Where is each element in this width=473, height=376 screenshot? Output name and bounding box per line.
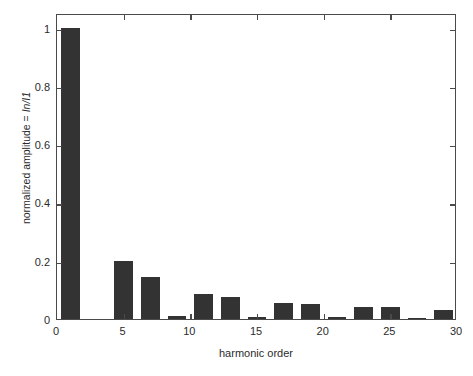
x-tick-top — [257, 15, 258, 20]
y-tick-left — [57, 204, 62, 205]
y-tick-label: 0 — [22, 314, 50, 326]
x-tick-label: 25 — [383, 325, 395, 337]
y-axis-title-prefix: normalized amplitude = — [20, 112, 32, 224]
x-tick-bottom — [124, 314, 125, 319]
x-tick-top — [124, 15, 125, 20]
x-tick-label: 30 — [450, 325, 462, 337]
x-tick-bottom — [324, 314, 325, 319]
y-tick-left — [57, 263, 62, 264]
bar — [408, 318, 427, 319]
x-tick-top — [190, 15, 191, 20]
bar — [141, 277, 160, 319]
bars-layer — [57, 15, 455, 319]
x-tick-label: 5 — [120, 325, 126, 337]
x-tick-bottom — [257, 314, 258, 319]
figure-canvas: 051015202530 00.20.40.60.81 harmonic ord… — [0, 0, 473, 376]
x-tick-top — [390, 15, 391, 20]
y-tick-right — [450, 30, 455, 31]
y-tick-right — [450, 88, 455, 89]
y-tick-label: 1 — [22, 23, 50, 35]
x-tick-label: 0 — [53, 325, 59, 337]
x-tick-label: 20 — [317, 325, 329, 337]
bar — [114, 261, 133, 319]
bar — [194, 294, 213, 319]
x-tick-bottom — [390, 314, 391, 319]
y-tick-right — [450, 263, 455, 264]
y-tick-left — [57, 146, 62, 147]
y-axis-title: normalized amplitude = In/I1 — [20, 48, 32, 268]
bar — [434, 310, 453, 319]
bar — [274, 303, 293, 319]
plot-area — [56, 14, 456, 320]
bar — [61, 28, 80, 319]
x-tick-label: 15 — [250, 325, 262, 337]
y-tick-right — [450, 146, 455, 147]
bar — [301, 304, 320, 319]
x-tick-bottom — [190, 314, 191, 319]
x-tick-top — [324, 15, 325, 20]
y-axis-title-italic: In/I1 — [20, 92, 32, 112]
bar — [354, 307, 373, 319]
x-axis-title: harmonic order — [56, 347, 456, 359]
y-tick-left — [57, 88, 62, 89]
y-tick-left — [57, 30, 62, 31]
bar — [221, 297, 240, 319]
x-tick-label: 10 — [183, 325, 195, 337]
bar — [168, 316, 187, 319]
y-tick-right — [450, 204, 455, 205]
bar — [328, 317, 347, 319]
